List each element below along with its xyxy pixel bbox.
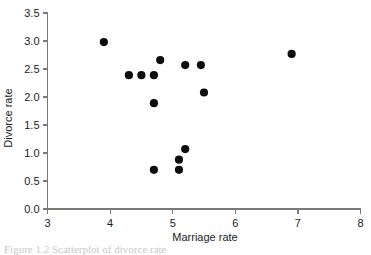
figure-caption-strip: Figure 1.2 Scatterplot of divorce rate xyxy=(0,245,371,255)
data-point xyxy=(137,71,145,79)
data-point xyxy=(181,145,189,153)
scatter-plot-figure: 0.00.51.01.52.02.53.03.5 345678 Marriage… xyxy=(0,0,371,255)
x-axis-ticks: 345678 xyxy=(44,209,363,229)
axes-group xyxy=(48,13,362,209)
x-tick-label: 7 xyxy=(295,217,301,229)
data-point xyxy=(288,50,296,58)
x-tick-label: 3 xyxy=(44,217,50,229)
data-point xyxy=(181,61,189,69)
data-point xyxy=(125,71,133,79)
data-point xyxy=(175,166,183,174)
y-axis-ticks: 0.00.51.01.52.02.53.03.5 xyxy=(24,7,47,215)
x-axis-title: Marriage rate xyxy=(172,231,237,243)
y-tick-label: 1.0 xyxy=(24,147,39,159)
x-tick-label: 8 xyxy=(357,217,363,229)
plot-canvas: 0.00.51.01.52.02.53.03.5 345678 Marriage… xyxy=(0,0,371,255)
data-point xyxy=(175,156,183,164)
data-point xyxy=(156,56,164,64)
data-point xyxy=(150,99,158,107)
y-tick-label: 3.5 xyxy=(24,7,39,19)
x-tick-label: 6 xyxy=(232,217,238,229)
y-tick-label: 0.5 xyxy=(24,175,39,187)
y-tick-label: 2.0 xyxy=(24,91,39,103)
y-tick-label: 1.5 xyxy=(24,119,39,131)
x-tick-label: 4 xyxy=(107,217,113,229)
y-axis-title: Divorce rate xyxy=(2,88,14,147)
y-tick-label: 0.0 xyxy=(24,203,39,215)
data-point xyxy=(100,38,108,46)
data-point xyxy=(197,61,205,69)
data-point xyxy=(200,88,208,96)
y-tick-label: 3.0 xyxy=(24,35,39,47)
data-point xyxy=(150,166,158,174)
data-point xyxy=(150,71,158,79)
x-tick-label: 5 xyxy=(170,217,176,229)
data-points-group xyxy=(100,38,296,174)
figure-caption: Figure 1.2 Scatterplot of divorce rate xyxy=(4,245,167,255)
y-tick-label: 2.5 xyxy=(24,63,39,75)
